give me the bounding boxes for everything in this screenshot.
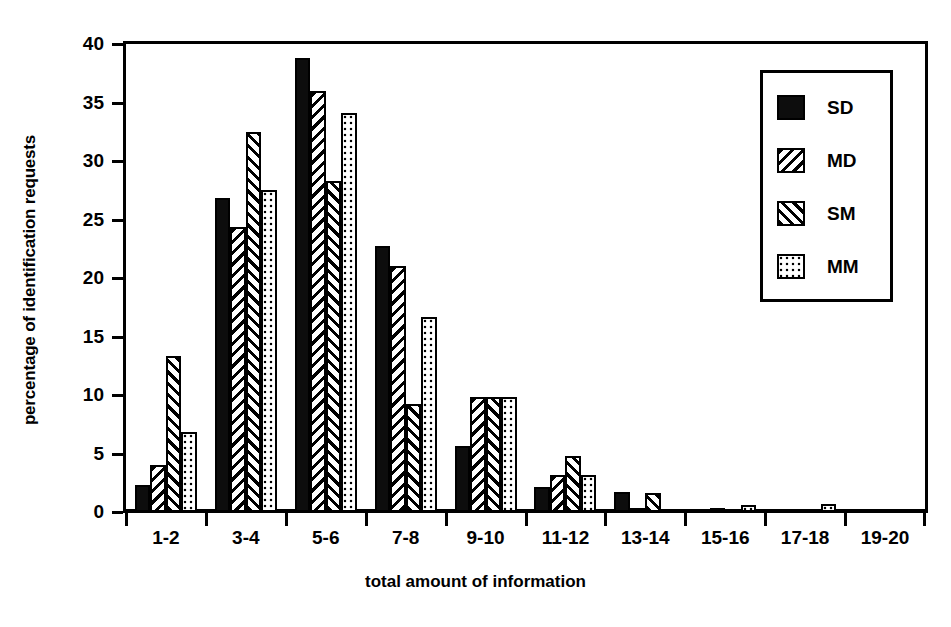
x-tick-mark [764,512,767,526]
x-tick-mark [525,512,528,526]
y-tick-mark [112,453,123,456]
x-tick-mark [125,512,128,526]
y-tick-mark [112,160,123,163]
x-tick-mark [923,512,926,526]
x-tick-mark [844,512,847,526]
x-tick-mark [365,512,368,526]
bar-md-13-14 [630,508,646,512]
bar-sm-5-6 [326,181,342,512]
bar-sd-3-4 [215,198,231,512]
bar-sm-9-10 [486,397,502,512]
y-tick-label: 35 [58,93,104,112]
bar-md-1-2 [150,465,166,512]
x-tick-mark [205,512,208,526]
bar-sd-9-10 [455,446,471,512]
y-tick-label: 0 [58,502,104,521]
legend-swatch-sd-icon [777,95,805,120]
legend-label: MD [827,151,857,170]
bar-sm-3-4 [246,132,262,512]
legend-label: MM [827,257,859,276]
legend-swatch-sm-icon [777,201,805,226]
bar-md-15-16 [710,508,726,512]
legend-item-md: MD [777,146,857,174]
x-tick-label: 19-20 [830,528,940,547]
legend-item-sd: SD [777,93,853,121]
y-tick-label: 10 [58,385,104,404]
bar-md-7-8 [390,266,406,512]
y-tick-label: 40 [58,34,104,53]
bar-sm-13-14 [645,493,661,512]
bar-sd-5-6 [295,58,311,512]
bar-mm-9-10 [501,397,517,512]
bar-sd-1-2 [135,485,151,512]
bar-sd-7-8 [375,246,391,512]
y-tick-mark [112,277,123,280]
bar-md-5-6 [310,91,326,512]
bar-mm-17-18 [821,504,837,512]
legend-label: SM [827,204,856,223]
legend: SDMDSMMM [760,70,893,302]
y-tick-mark [112,511,123,514]
bar-sm-11-12 [565,456,581,512]
x-tick-mark [285,512,288,526]
legend-item-mm: MM [777,252,859,280]
x-tick-mark [684,512,687,526]
bar-sm-1-2 [166,356,182,512]
bar-sm-7-8 [406,404,422,512]
bar-mm-11-12 [581,475,597,512]
bar-mm-1-2 [181,432,197,512]
y-tick-label: 25 [58,210,104,229]
bar-mm-5-6 [341,113,357,512]
y-tick-mark [112,394,123,397]
bar-md-11-12 [550,475,566,512]
legend-label: SD [827,98,853,117]
y-tick-label: 30 [58,151,104,170]
bar-sd-13-14 [614,492,630,512]
legend-swatch-mm-icon [777,254,805,279]
y-tick-mark [112,336,123,339]
bar-mm-3-4 [261,190,277,512]
x-tick-mark [445,512,448,526]
y-tick-mark [112,102,123,105]
x-tick-mark [604,512,607,526]
y-tick-mark [112,219,123,222]
y-tick-label: 5 [58,444,104,463]
y-tick-label: 15 [58,327,104,346]
bar-mm-15-16 [741,505,757,512]
bar-md-9-10 [470,397,486,512]
bar-chart: percentage of identification requests 05… [0,0,951,627]
bar-mm-7-8 [421,317,437,512]
bar-sd-11-12 [534,487,550,512]
x-axis-title: total amount of information [0,572,951,592]
bar-md-3-4 [230,227,246,512]
y-axis-title: percentage of identification requests [20,45,40,515]
y-tick-mark [112,43,123,46]
y-tick-label: 20 [58,268,104,287]
legend-swatch-md-icon [777,148,805,173]
legend-item-sm: SM [777,199,856,227]
